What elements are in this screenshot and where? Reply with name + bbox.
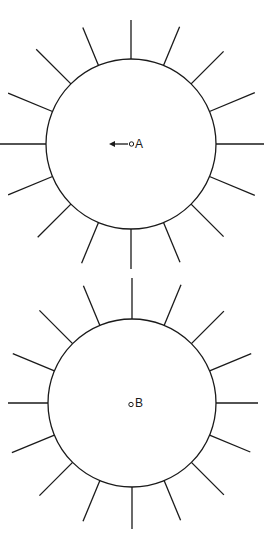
spike-b-15 [83, 286, 100, 326]
spike-a-2 [191, 51, 224, 84]
spike-a-9 [82, 223, 99, 264]
spike-a-15 [83, 28, 99, 66]
spike-b-7 [164, 481, 181, 521]
spike-a-11 [8, 177, 52, 195]
spike-b-6 [191, 462, 224, 495]
spike-a-14 [36, 49, 71, 84]
spike-a-1 [164, 27, 180, 66]
spike-b-13 [13, 354, 55, 371]
point-a-marker [129, 142, 133, 146]
spike-a-5 [210, 177, 255, 196]
point-b-label: B [135, 396, 143, 410]
spike-a-10 [38, 204, 71, 237]
spike-b-10 [39, 462, 72, 495]
diagram-canvas: A B [0, 0, 272, 547]
point-a-label: A [135, 137, 143, 151]
spike-a-3 [210, 93, 255, 112]
spike-a-7 [164, 223, 181, 263]
spike-b-11 [12, 435, 55, 453]
spike-a-13 [8, 93, 52, 111]
figure-b: B [8, 278, 258, 529]
spike-b-5 [210, 435, 251, 452]
arrow-a-head-icon [109, 141, 115, 147]
spike-a-6 [191, 204, 224, 237]
spike-b-1 [164, 285, 181, 326]
spike-b-9 [83, 481, 100, 522]
figure-a: A [0, 20, 264, 269]
spike-b-3 [210, 354, 252, 371]
spike-b-14 [39, 310, 72, 343]
point-b-marker [129, 402, 133, 406]
spike-b-2 [191, 311, 224, 344]
